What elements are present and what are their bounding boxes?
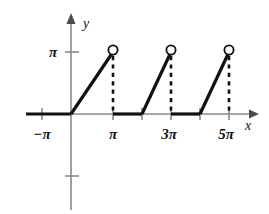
graph-figure: −π π 3π 5π π y x [0,0,269,214]
x-tick-label-3pi: 3π [160,126,178,142]
dashed-drop-lines-group [113,56,229,112]
x-tick-label-minus-pi: −π [33,126,51,142]
y-axis-arrowhead [67,13,76,24]
open-point-marker-2 [166,45,175,54]
y-tick-label-pi: π [49,44,58,60]
ramp-2 [142,52,171,114]
open-point-markers-group [108,45,233,54]
open-point-marker-3 [224,45,233,54]
ramp-1 [71,52,113,114]
sawtooth-plot-svg: −π π 3π 5π π y x [0,0,269,214]
x-tick-label-pi: π [109,126,118,142]
x-tick-label-5pi: 5π [218,126,235,142]
x-axis-label: x [244,118,252,133]
ramp-segments-group [71,52,229,114]
y-axis-label: y [81,16,90,31]
open-point-marker-1 [108,45,117,54]
ramp-3 [200,52,229,114]
